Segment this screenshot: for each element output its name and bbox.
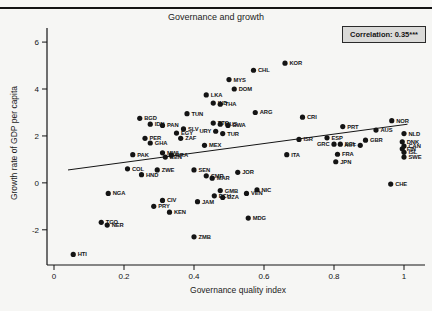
y-tick-label: 4: [35, 85, 40, 94]
point-label-DOM: DOM: [239, 86, 252, 92]
y-tick-label: -2: [32, 226, 40, 235]
data-point-CHL: [251, 68, 256, 73]
point-label-CRI: CRI: [307, 114, 317, 120]
y-tick-label: 6: [35, 38, 40, 47]
point-label-KEN: KEN: [174, 209, 186, 215]
data-point-ZAF: [178, 136, 183, 141]
data-point-CMR: [204, 173, 209, 178]
data-point-AUT: [358, 143, 363, 148]
data-point-PER: [142, 136, 147, 141]
data-point-NGA: [106, 191, 111, 196]
data-point-THA: [218, 102, 223, 107]
data-point-AUS: [373, 127, 378, 132]
point-label-SWE: SWE: [409, 154, 422, 160]
data-point-BEN: [163, 154, 168, 159]
point-label-URY: URY: [199, 128, 211, 134]
data-point-COL: [125, 166, 130, 171]
point-label-CIV: CIV: [167, 197, 177, 203]
data-point-GRC: [331, 142, 336, 147]
y-tick-label: 2: [35, 132, 40, 141]
data-point-NOR: [389, 118, 394, 123]
data-point-MDG: [246, 215, 251, 220]
data-point-JAM: [195, 199, 200, 204]
point-label-MDG: MDG: [253, 215, 267, 221]
y-tick-label: 0: [35, 179, 40, 188]
data-point-PAN: [160, 123, 165, 128]
point-label-SLV: SLV: [188, 126, 199, 132]
point-label-ISR: ISR: [304, 136, 314, 142]
data-point-MEX: [202, 143, 207, 148]
data-point-BRA: [169, 153, 174, 158]
data-point-NIC: [254, 187, 259, 192]
point-label-HND: HND: [146, 172, 158, 178]
data-point-CAN: [401, 143, 406, 148]
x-tick-label: 0.2: [118, 272, 130, 281]
data-point-TUN: [184, 111, 189, 116]
data-point-TTO: [211, 120, 216, 125]
point-label-GHA: GHA: [155, 140, 168, 146]
point-label-FRA: FRA: [342, 151, 355, 157]
data-point-SEN: [191, 167, 196, 172]
governance-growth-figure: Governance and growth Correlation: 0.35*…: [0, 0, 432, 311]
point-label-NOR: NOR: [396, 118, 409, 124]
data-point-DOM: [232, 86, 237, 91]
data-point-TUR: [220, 131, 225, 136]
y-axis-title: Growth rate of GDP per capita: [9, 43, 19, 243]
data-point-LKA: [204, 92, 209, 97]
point-label-JPN: JPN: [340, 159, 351, 165]
point-label-CHE: CHE: [395, 181, 407, 187]
data-point-IND: [211, 100, 216, 105]
data-point-HTI: [71, 252, 76, 257]
point-label-JAM: JAM: [202, 199, 214, 205]
point-label-AUT: AUT: [344, 142, 356, 148]
data-point-ISL: [401, 150, 406, 155]
point-label-ZWE: ZWE: [162, 167, 175, 173]
point-label-ZAF: ZAF: [185, 135, 197, 141]
data-point-TGO: [99, 220, 104, 225]
x-tick-label: 1: [402, 272, 407, 281]
data-point-CHE: [388, 181, 393, 186]
scatter-plot: -2024600.20.40.60.81HTITGONERNGACOLPAKBG…: [0, 0, 432, 311]
data-point-BWA: [225, 123, 230, 128]
data-point-ESP: [324, 135, 329, 140]
data-point-PRY: [151, 204, 156, 209]
data-point-JPN: [333, 159, 338, 164]
data-point-NER: [105, 223, 110, 228]
point-label-PAK: PAK: [137, 152, 149, 158]
point-label-TUN: TUN: [192, 111, 204, 117]
data-point-KOR: [282, 61, 287, 66]
data-point-BGD: [137, 116, 142, 121]
data-point-PRT: [340, 124, 345, 129]
data-point-GHA: [148, 140, 153, 145]
point-label-ARG: ARG: [260, 109, 273, 115]
point-label-KOR: KOR: [290, 60, 303, 66]
point-label-JOR: JOR: [242, 169, 255, 175]
point-label-GBR: GBR: [370, 137, 383, 143]
data-point-FRA: [335, 152, 340, 157]
data-point-ZWE: [155, 167, 160, 172]
data-point-CRI: [300, 115, 305, 120]
point-label-THA: THA: [225, 101, 238, 107]
point-label-MAR: MAR: [217, 175, 231, 181]
data-point-NLD: [401, 131, 406, 136]
data-point-SLV: [181, 126, 186, 131]
data-point-MYS: [226, 77, 231, 82]
x-axis-title: Governance quality index: [138, 285, 338, 295]
data-point-KEN: [167, 210, 172, 215]
point-label-PRT: PRT: [347, 124, 359, 130]
point-label-COL: COL: [132, 166, 144, 172]
data-point-ECU: [212, 193, 217, 198]
data-point-URY: [213, 129, 218, 134]
point-label-CAN: CAN: [409, 143, 421, 149]
x-tick-label: 0.8: [328, 272, 340, 281]
data-point-MUS: [218, 122, 223, 127]
point-label-AUS: AUS: [381, 127, 393, 133]
data-point-ITA: [284, 152, 289, 157]
point-label-HTI: HTI: [78, 251, 88, 257]
point-label-NLD: NLD: [409, 131, 421, 137]
data-point-HND: [139, 172, 144, 177]
data-point-VEN: [244, 191, 249, 196]
point-label-MYS: MYS: [234, 77, 246, 83]
point-label-ESP: ESP: [332, 135, 344, 141]
point-label-BWA: BWA: [232, 122, 246, 128]
